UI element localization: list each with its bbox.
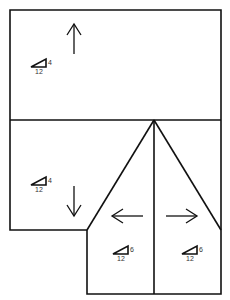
hip-left-line [87, 120, 154, 230]
hip-right-line [154, 120, 221, 230]
svg-text:12: 12 [35, 68, 43, 75]
svg-text:12: 12 [117, 255, 125, 262]
arrow-up-icon [67, 24, 81, 54]
roof-plan-diagram: 4 12 4 12 6 12 6 12 [0, 0, 230, 300]
svg-text:6: 6 [199, 246, 203, 253]
pitch-symbol-upper: 4 12 [31, 59, 52, 75]
arrow-down-icon [67, 186, 81, 216]
arrow-right-icon [166, 209, 197, 223]
pitch-symbol-gable-right: 6 12 [182, 246, 203, 262]
pitch-symbol-lower-left: 4 12 [31, 177, 52, 193]
roof-outline [10, 10, 221, 294]
svg-text:6: 6 [130, 246, 134, 253]
svg-text:12: 12 [186, 255, 194, 262]
svg-text:4: 4 [48, 59, 52, 66]
arrow-left-icon [112, 209, 143, 223]
svg-text:4: 4 [48, 177, 52, 184]
pitch-symbol-gable-left: 6 12 [113, 246, 134, 262]
svg-text:12: 12 [35, 186, 43, 193]
